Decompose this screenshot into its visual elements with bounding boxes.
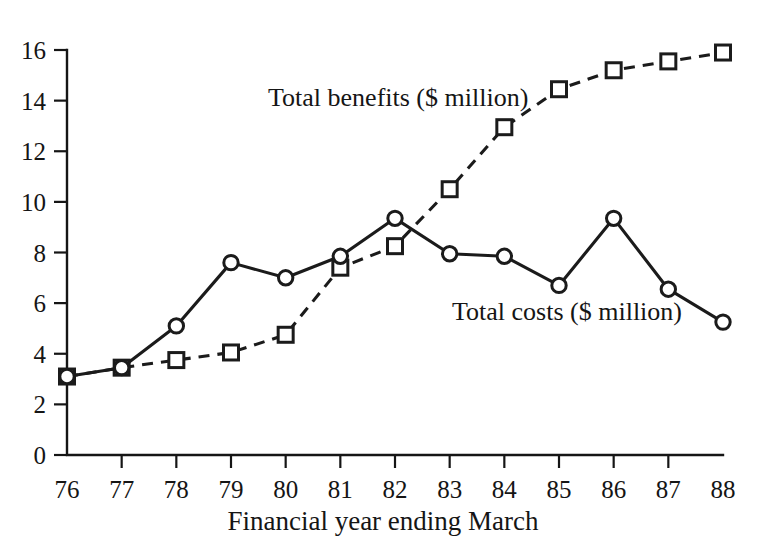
data-point-marker-circle (661, 282, 675, 296)
data-point-marker-circle (114, 360, 128, 374)
data-point-marker-square (497, 120, 512, 135)
data-point-marker-circle (388, 211, 402, 225)
x-tick-label: 80 (273, 476, 298, 503)
x-tick-label: 76 (55, 476, 80, 503)
y-tick-label: 16 (21, 37, 46, 64)
x-tick-label: 82 (383, 476, 408, 503)
chart-annotations: Total benefits ($ million)Total costs ($… (268, 83, 682, 326)
data-point-marker-square (278, 327, 293, 342)
x-tick-label: 79 (219, 476, 244, 503)
y-tick-label: 0 (34, 442, 47, 469)
x-tick-label: 84 (492, 476, 518, 503)
y-tick-label: 2 (34, 391, 47, 418)
data-point-marker-circle (278, 271, 292, 285)
series-annotation-1: Total costs ($ million) (452, 297, 682, 326)
x-tick-label: 78 (164, 476, 189, 503)
data-point-marker-square (552, 82, 567, 97)
x-tick-label: 86 (601, 476, 626, 503)
data-point-marker-circle (497, 249, 511, 263)
x-axis-title: Financial year ending March (227, 506, 539, 536)
x-axis-ticks: 76777879808182838485868788 (55, 455, 736, 503)
data-point-marker-square (661, 54, 676, 69)
data-point-marker-square (442, 182, 457, 197)
y-tick-label: 12 (21, 138, 46, 165)
line-chart: 0246810121416 76777879808182838485868788… (0, 0, 767, 551)
x-tick-label: 83 (437, 476, 462, 503)
data-point-marker-circle (442, 247, 456, 261)
data-point-marker-circle (333, 249, 347, 263)
data-point-marker-square (606, 63, 621, 78)
data-point-marker-square (224, 345, 239, 360)
data-point-marker-square (169, 353, 184, 368)
data-point-marker-square (388, 239, 403, 254)
y-tick-label: 4 (34, 341, 47, 368)
y-tick-label: 10 (21, 189, 46, 216)
y-tick-label: 14 (21, 88, 47, 115)
chart-container: 0246810121416 76777879808182838485868788… (0, 0, 767, 551)
y-axis-ticks: 0246810121416 (21, 37, 67, 469)
x-tick-label: 81 (328, 476, 353, 503)
series-annotation-0: Total benefits ($ million) (268, 83, 528, 112)
x-tick-label: 87 (656, 476, 681, 503)
data-point-marker-circle (606, 211, 620, 225)
data-point-marker-circle (552, 278, 566, 292)
y-tick-label: 8 (34, 240, 47, 267)
data-point-marker-circle (224, 255, 238, 269)
data-point-marker-square (716, 45, 731, 60)
data-point-marker-circle (716, 315, 730, 329)
x-tick-label: 88 (711, 476, 736, 503)
x-tick-label: 85 (547, 476, 572, 503)
data-point-marker-circle (169, 319, 183, 333)
y-tick-label: 6 (34, 290, 47, 317)
data-point-marker-circle (60, 369, 74, 383)
x-tick-label: 77 (109, 476, 134, 503)
